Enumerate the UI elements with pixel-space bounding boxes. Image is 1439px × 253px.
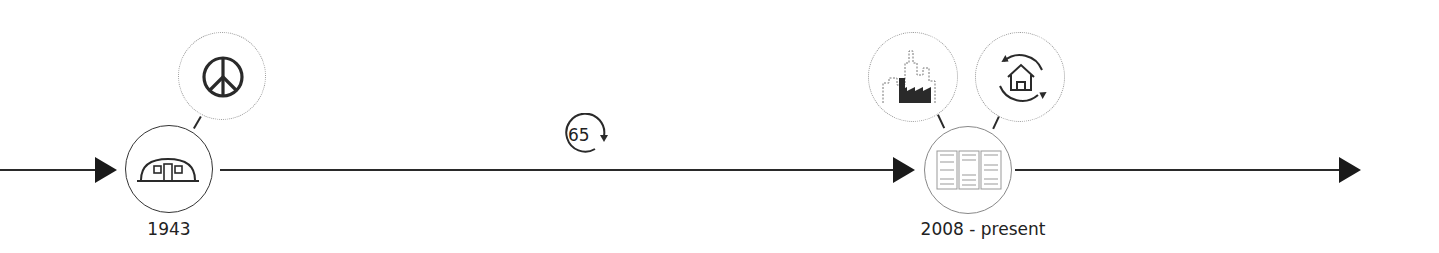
milestone-node xyxy=(125,125,213,213)
milestone-node xyxy=(924,126,1012,214)
quonset-hut-icon xyxy=(126,126,211,211)
city-factory-icon xyxy=(869,33,959,123)
cycle-badge: 65 xyxy=(557,113,613,159)
arrow-right-icon xyxy=(95,157,117,183)
timeline-segment-start xyxy=(0,169,100,171)
cycle-badge-value: 65 xyxy=(568,125,590,145)
timeline-segment-end xyxy=(1015,169,1345,171)
house-cycle-icon xyxy=(976,33,1066,123)
satellite-house-cycle xyxy=(975,32,1065,122)
milestone-label: 1943 xyxy=(129,219,209,239)
arrow-right-icon xyxy=(893,157,915,183)
peace-sign-icon xyxy=(179,33,267,121)
arrow-right-icon xyxy=(1339,157,1361,183)
timeline-segment-middle xyxy=(220,169,900,171)
shelving-units-icon xyxy=(925,127,1010,212)
satellite-peace xyxy=(178,32,266,120)
satellite-city-factory xyxy=(868,32,958,122)
milestone-label: 2008 - present xyxy=(893,219,1073,239)
